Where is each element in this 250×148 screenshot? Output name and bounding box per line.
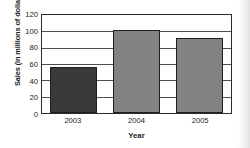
y-tick-label-20: 20 <box>30 93 38 102</box>
x-tick-label-2005: 2005 <box>168 116 232 125</box>
plot-area <box>41 14 232 114</box>
y-axis-tick-labels: 0 20 40 60 80 100 120 <box>18 14 38 114</box>
y-tick-label-120: 120 <box>25 10 38 19</box>
bar-chart-figure: Sales (in millions of dollars) 0 20 40 6… <box>0 0 250 148</box>
bar-2004 <box>113 30 160 113</box>
page-edge-shadow <box>238 0 250 148</box>
bar-2003 <box>50 67 97 113</box>
y-tick-label-100: 100 <box>25 26 38 35</box>
y-tick-label-60: 60 <box>30 60 38 69</box>
bar-2005 <box>176 38 223 113</box>
y-tick-label-80: 80 <box>30 43 38 52</box>
x-tick-label-2003: 2003 <box>41 116 105 125</box>
x-tick-label-2004: 2004 <box>105 116 169 125</box>
y-tick-label-0: 0 <box>34 110 38 119</box>
bar-group <box>42 15 231 113</box>
bar-slot-2004 <box>105 15 168 113</box>
bar-slot-2003 <box>42 15 105 113</box>
x-axis-title: Year <box>41 131 232 140</box>
y-tick-label-40: 40 <box>30 76 38 85</box>
x-axis-tick-labels: 2003 2004 2005 <box>41 116 232 125</box>
bar-slot-2005 <box>168 15 231 113</box>
